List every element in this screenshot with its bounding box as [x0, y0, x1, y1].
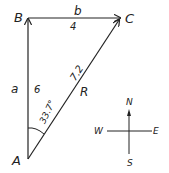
compass-south: S [127, 158, 133, 168]
compass-west: W [94, 126, 104, 136]
north-arrow-icon [127, 109, 131, 116]
vector-magnitude-r: 7.2 [68, 63, 86, 82]
vector-magnitude-a: 6 [34, 84, 40, 95]
compass-rose: N S W E [94, 97, 159, 168]
compass-east: E [153, 126, 159, 136]
point-label-b: B [14, 10, 23, 25]
vector-diagram: B C A b 4 a 6 7.2 R 33.7° N S W E [0, 0, 169, 173]
point-label-c: C [125, 11, 135, 26]
point-label-a: A [11, 153, 21, 168]
vector-label-a: a [11, 82, 18, 96]
vector-label-b: b [74, 4, 82, 18]
angle-arc [28, 128, 44, 134]
vector-magnitude-b: 4 [70, 21, 76, 32]
compass-north: N [126, 97, 133, 107]
angle-label: 33.7° [38, 99, 57, 125]
vector-label-r: R [80, 85, 88, 99]
vector-r [28, 20, 119, 159]
